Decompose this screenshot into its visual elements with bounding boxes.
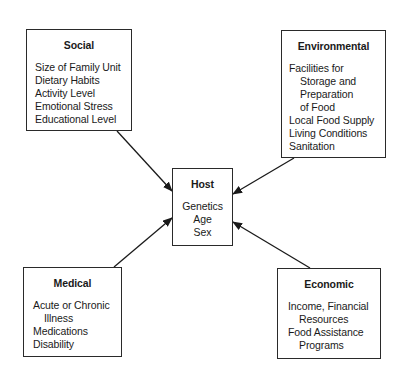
host-box: Host Genetics Age Sex (172, 168, 233, 246)
economic-item: Income, Financial (288, 300, 380, 313)
arrow-medical-to-host (114, 218, 172, 267)
social-item: Activity Level (35, 87, 131, 100)
arrow-environmental-to-host (233, 158, 294, 194)
environmental-item: Sanitation (289, 140, 385, 153)
environmental-item: Living Conditions (289, 127, 385, 140)
environmental-item: of Food (289, 101, 385, 114)
medical-item: Illness (33, 312, 121, 325)
environmental-title: Environmental (282, 40, 385, 52)
host-title: Host (173, 178, 232, 190)
social-items: Size of Family Unit Dietary Habits Activ… (27, 61, 131, 126)
environmental-item: Preparation (289, 88, 385, 101)
host-item: Sex (173, 226, 232, 239)
medical-items: Acute or Chronic Illness Medications Dis… (24, 299, 121, 351)
environmental-item: Local Food Supply (289, 114, 385, 127)
medical-item: Acute or Chronic (33, 299, 121, 312)
arrow-social-to-host (117, 131, 172, 191)
economic-title: Economic (278, 278, 380, 290)
medical-item: Medications (33, 325, 121, 338)
social-item: Emotional Stress (35, 100, 131, 113)
economic-item: Programs (288, 339, 380, 352)
social-box: Social Size of Family Unit Dietary Habit… (26, 29, 132, 131)
host-item: Age (173, 213, 232, 226)
social-title: Social (27, 39, 131, 51)
economic-box: Economic Income, Financial Resources Foo… (277, 268, 381, 359)
environmental-item: Facilities for (289, 62, 385, 75)
host-item: Genetics (173, 200, 232, 213)
medical-box: Medical Acute or Chronic Illness Medicat… (23, 267, 122, 357)
economic-items: Income, Financial Resources Food Assista… (278, 300, 380, 352)
economic-item: Food Assistance (288, 326, 380, 339)
economic-item: Resources (288, 313, 380, 326)
social-item: Educational Level (35, 113, 131, 126)
environmental-box: Environmental Facilities for Storage and… (281, 30, 386, 158)
social-item: Size of Family Unit (35, 61, 131, 74)
environmental-item: Storage and (289, 75, 385, 88)
medical-item: Disability (33, 338, 121, 351)
host-items: Genetics Age Sex (173, 200, 232, 239)
environmental-items: Facilities for Storage and Preparation o… (282, 62, 385, 153)
arrow-economic-to-host (233, 222, 310, 268)
medical-title: Medical (24, 277, 121, 289)
social-item: Dietary Habits (35, 74, 131, 87)
